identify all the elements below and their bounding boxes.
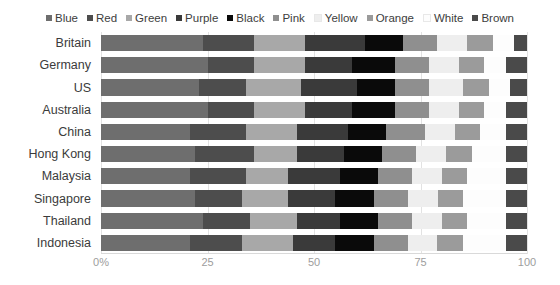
bar-segment-blue[interactable] bbox=[101, 35, 203, 51]
legend-item-yellow[interactable]: Yellow bbox=[314, 12, 358, 24]
bar-segment-green[interactable] bbox=[246, 124, 297, 140]
bar-segment-white[interactable] bbox=[467, 213, 505, 229]
legend-item-pink[interactable]: Pink bbox=[273, 12, 304, 24]
stacked-bar[interactable] bbox=[101, 57, 527, 73]
bar-segment-blue[interactable] bbox=[101, 146, 195, 162]
bar-segment-white[interactable] bbox=[463, 190, 506, 206]
bar-segment-purple[interactable] bbox=[297, 213, 340, 229]
bar-segment-red[interactable] bbox=[190, 168, 245, 184]
bar-segment-orange[interactable] bbox=[442, 213, 468, 229]
bar-segment-yellow[interactable] bbox=[429, 79, 463, 95]
bar-segment-pink[interactable] bbox=[395, 57, 429, 73]
bar-segment-green[interactable] bbox=[242, 190, 289, 206]
bar-segment-purple[interactable] bbox=[301, 79, 356, 95]
legend-item-purple[interactable]: Purple bbox=[176, 12, 218, 24]
bar-segment-orange[interactable] bbox=[467, 35, 493, 51]
bar-segment-blue[interactable] bbox=[101, 190, 195, 206]
bar-segment-pink[interactable] bbox=[395, 79, 429, 95]
legend-item-brown[interactable]: Brown bbox=[472, 12, 514, 24]
bar-segment-orange[interactable] bbox=[438, 190, 464, 206]
bar-segment-blue[interactable] bbox=[101, 79, 199, 95]
stacked-bar[interactable] bbox=[101, 213, 527, 229]
bar-segment-white[interactable] bbox=[493, 35, 514, 51]
bar-segment-brown[interactable] bbox=[506, 57, 527, 73]
bar-segment-black[interactable] bbox=[340, 213, 378, 229]
stacked-bar[interactable] bbox=[101, 146, 527, 162]
bar-segment-black[interactable] bbox=[340, 168, 378, 184]
bar-segment-red[interactable] bbox=[199, 79, 246, 95]
bar-segment-blue[interactable] bbox=[101, 57, 208, 73]
bar-segment-purple[interactable] bbox=[305, 57, 352, 73]
bar-segment-white[interactable] bbox=[467, 168, 505, 184]
bar-segment-black[interactable] bbox=[348, 124, 386, 140]
stacked-bar[interactable] bbox=[101, 35, 527, 51]
bar-segment-black[interactable] bbox=[352, 57, 395, 73]
bar-segment-yellow[interactable] bbox=[425, 124, 455, 140]
bar-segment-green[interactable] bbox=[254, 146, 297, 162]
bar-segment-red[interactable] bbox=[203, 213, 250, 229]
bar-segment-purple[interactable] bbox=[305, 35, 365, 51]
stacked-bar[interactable] bbox=[101, 124, 527, 140]
bar-segment-brown[interactable] bbox=[506, 146, 527, 162]
bar-segment-black[interactable] bbox=[335, 190, 373, 206]
stacked-bar[interactable] bbox=[101, 168, 527, 184]
bar-segment-green[interactable] bbox=[246, 168, 289, 184]
bar-segment-white[interactable] bbox=[484, 57, 505, 73]
legend-item-black[interactable]: Black bbox=[227, 12, 264, 24]
legend-item-red[interactable]: Red bbox=[87, 12, 117, 24]
bar-segment-brown[interactable] bbox=[506, 235, 527, 251]
bar-segment-black[interactable] bbox=[357, 79, 395, 95]
stacked-bar[interactable] bbox=[101, 79, 527, 95]
bar-segment-yellow[interactable] bbox=[429, 102, 459, 118]
stacked-bar[interactable] bbox=[101, 235, 527, 251]
bar-segment-pink[interactable] bbox=[386, 124, 424, 140]
bar-segment-orange[interactable] bbox=[442, 168, 468, 184]
bar-segment-orange[interactable] bbox=[437, 235, 463, 251]
bar-segment-red[interactable] bbox=[190, 235, 241, 251]
bar-segment-green[interactable] bbox=[242, 235, 293, 251]
bar-segment-blue[interactable] bbox=[101, 168, 190, 184]
bar-segment-blue[interactable] bbox=[101, 235, 190, 251]
bar-segment-white[interactable] bbox=[489, 79, 510, 95]
bar-segment-green[interactable] bbox=[246, 79, 301, 95]
bar-segment-purple[interactable] bbox=[297, 124, 348, 140]
bar-segment-pink[interactable] bbox=[382, 146, 416, 162]
bar-segment-red[interactable] bbox=[203, 35, 254, 51]
bar-segment-brown[interactable] bbox=[506, 190, 527, 206]
bar-segment-pink[interactable] bbox=[403, 35, 437, 51]
bar-segment-brown[interactable] bbox=[514, 35, 527, 51]
bar-segment-orange[interactable] bbox=[459, 57, 485, 73]
bar-segment-yellow[interactable] bbox=[437, 35, 467, 51]
bar-segment-yellow[interactable] bbox=[416, 146, 446, 162]
bar-segment-black[interactable] bbox=[352, 102, 395, 118]
bar-segment-black[interactable] bbox=[335, 235, 373, 251]
bar-segment-white[interactable] bbox=[463, 235, 506, 251]
bar-segment-brown[interactable] bbox=[506, 213, 527, 229]
bar-segment-orange[interactable] bbox=[455, 124, 481, 140]
bar-segment-white[interactable] bbox=[480, 124, 506, 140]
bar-segment-orange[interactable] bbox=[463, 79, 489, 95]
bar-segment-yellow[interactable] bbox=[412, 168, 442, 184]
bar-segment-yellow[interactable] bbox=[412, 213, 442, 229]
bar-segment-pink[interactable] bbox=[374, 235, 408, 251]
bar-segment-pink[interactable] bbox=[378, 168, 412, 184]
bar-segment-white[interactable] bbox=[484, 102, 505, 118]
bar-segment-yellow[interactable] bbox=[429, 57, 459, 73]
legend-item-white[interactable]: White bbox=[423, 12, 463, 24]
bar-segment-brown[interactable] bbox=[510, 79, 527, 95]
bar-segment-orange[interactable] bbox=[459, 102, 485, 118]
bar-segment-blue[interactable] bbox=[101, 102, 208, 118]
bar-segment-red[interactable] bbox=[190, 124, 245, 140]
bar-segment-blue[interactable] bbox=[101, 213, 203, 229]
bar-segment-green[interactable] bbox=[254, 57, 305, 73]
bar-segment-black[interactable] bbox=[344, 146, 382, 162]
bar-segment-purple[interactable] bbox=[305, 102, 352, 118]
bar-segment-green[interactable] bbox=[254, 35, 305, 51]
bar-segment-orange[interactable] bbox=[446, 146, 472, 162]
bar-segment-yellow[interactable] bbox=[408, 235, 438, 251]
legend-item-green[interactable]: Green bbox=[126, 12, 167, 24]
legend-item-blue[interactable]: Blue bbox=[46, 12, 78, 24]
bar-segment-pink[interactable] bbox=[378, 213, 412, 229]
bar-segment-green[interactable] bbox=[254, 102, 305, 118]
bar-segment-purple[interactable] bbox=[288, 168, 339, 184]
